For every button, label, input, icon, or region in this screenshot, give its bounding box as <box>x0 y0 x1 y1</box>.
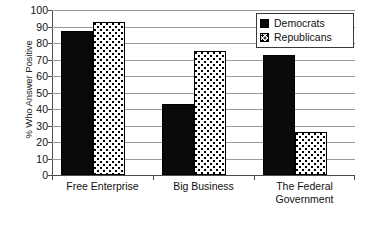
y-tick-label: 80 <box>20 38 48 48</box>
x-axis-category-labels: Free EnterpriseBig BusinessThe FederalGo… <box>52 180 355 224</box>
bar-republicans-1 <box>194 51 226 175</box>
bar-republicans-2 <box>295 132 327 175</box>
bar-democrats-0 <box>61 31 93 175</box>
y-tick-label: 50 <box>20 88 48 98</box>
y-tick-mark <box>48 60 52 61</box>
y-tick-mark <box>48 27 52 28</box>
legend: Democrats Republicans <box>256 13 354 48</box>
x-category-label: The FederalGovernment <box>254 180 355 206</box>
y-tick-label: 20 <box>20 137 48 147</box>
bar-republicans-0 <box>93 22 125 175</box>
legend-label-democrats: Democrats <box>274 17 325 29</box>
dotted-square-icon <box>260 33 269 42</box>
y-tick-mark <box>48 109 52 110</box>
solid-black-square-icon <box>260 19 269 28</box>
y-tick-label: 70 <box>20 55 48 65</box>
y-tick-label: 60 <box>20 71 48 81</box>
y-tick-mark <box>48 10 52 11</box>
bar-democrats-2 <box>263 55 295 175</box>
y-tick-label: 100 <box>20 5 48 15</box>
x-category-label-line: Free Enterprise <box>52 180 153 193</box>
x-category-label: Free Enterprise <box>52 180 153 193</box>
x-category-label: Big Business <box>153 180 254 193</box>
y-tick-mark <box>48 142 52 143</box>
x-category-label-line: The Federal <box>254 180 355 193</box>
legend-label-republicans: Republicans <box>274 31 332 43</box>
bar-chart: % Who Answer Positive 100908070605040302… <box>0 0 370 229</box>
y-tick-label: 30 <box>20 121 48 131</box>
legend-item-democrats: Democrats <box>260 16 350 30</box>
y-tick-label: 10 <box>20 154 48 164</box>
x-category-label-line: Big Business <box>153 180 254 193</box>
bar-democrats-1 <box>162 104 194 175</box>
y-tick-label: 90 <box>20 22 48 32</box>
y-tick-mark <box>48 159 52 160</box>
y-tick-label: 0 <box>20 170 48 180</box>
y-tick-mark <box>48 93 52 94</box>
y-axis-tick-labels: 1009080706050403020100 <box>20 10 48 176</box>
y-tick-mark <box>48 43 52 44</box>
y-tick-mark <box>48 76 52 77</box>
x-category-label-line: Government <box>254 193 355 206</box>
y-tick-label: 40 <box>20 104 48 114</box>
legend-item-republicans: Republicans <box>260 30 350 44</box>
y-tick-mark <box>48 126 52 127</box>
